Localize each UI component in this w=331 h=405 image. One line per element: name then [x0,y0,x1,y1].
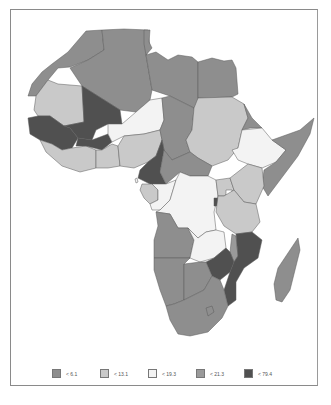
legend-label: < 13.1 [114,371,128,377]
legend-item-4: < 21.3 [196,369,244,378]
legend-swatch [244,369,253,378]
legend-swatch [100,369,109,378]
island-bioko[interactable] [135,178,138,183]
country-tunisia[interactable] [144,30,152,55]
legend-item-1: < 6.1 [52,369,100,378]
legend-label: < 21.3 [210,371,224,377]
legend-swatch [148,369,157,378]
legend-swatch [196,369,205,378]
legend-label: < 6.1 [66,371,77,377]
legend-item-3: < 19.3 [148,369,196,378]
africa-choropleth-map [0,0,331,405]
country-madagascar[interactable] [274,238,300,302]
country-egypt[interactable] [198,58,238,98]
legend-label: < 19.3 [162,371,176,377]
legend-label: < 79.4 [258,371,272,377]
country-chad[interactable] [160,96,194,160]
legend-item-2: < 13.1 [100,369,148,378]
legend: < 6.1 < 13.1 < 19.3 < 21.3 < 79.4 [52,369,292,378]
legend-swatch [52,369,61,378]
legend-item-5: < 79.4 [244,369,292,378]
